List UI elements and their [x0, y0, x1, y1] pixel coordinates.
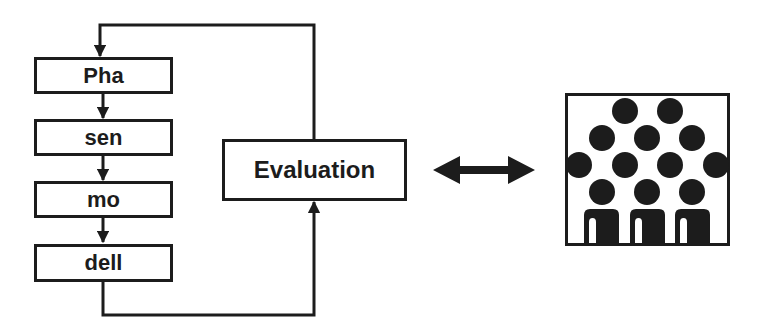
- evaluation-label: Evaluation: [254, 156, 375, 184]
- diagram-canvas: Pha sen mo dell Evaluation: [0, 0, 763, 334]
- evaluation-box: Evaluation: [222, 139, 407, 201]
- stage-label: dell: [85, 250, 123, 276]
- stage-box-mo: mo: [34, 181, 173, 218]
- stage-label: mo: [87, 187, 120, 213]
- stage-label: sen: [85, 125, 123, 151]
- stage-label: Pha: [83, 63, 123, 89]
- stage-box-dell: dell: [34, 244, 173, 282]
- bidirectional-arrow-icon: [433, 156, 535, 184]
- stage-box-pha: Pha: [34, 57, 173, 94]
- audience-group-icon: [566, 95, 729, 245]
- stage-box-sen: sen: [34, 119, 173, 156]
